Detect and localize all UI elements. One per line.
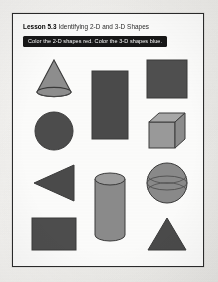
worksheet-frame: Lesson 5.3 Identifying 2-D and 3-D Shape… (12, 13, 204, 267)
shape-cell-rectangle-tall[interactable] (83, 54, 137, 156)
shape-cell-sphere[interactable] (139, 158, 195, 208)
cube-icon (145, 109, 189, 153)
shape-cell-triangle-left[interactable] (25, 158, 83, 208)
instruction-banner: Color the 2-D shapes red. Color the 3-D … (23, 36, 167, 47)
square-icon (145, 58, 189, 100)
rectangle-icon (90, 69, 130, 141)
lesson-number: Lesson 5.3 (23, 23, 57, 30)
sphere-icon (145, 161, 189, 205)
triangle-icon (31, 162, 77, 204)
instruction-text: Color the 2-D shapes red. Color the 3-D … (28, 38, 162, 44)
cylinder-icon (92, 172, 128, 244)
scanned-worksheet-page: Lesson 5.3 Identifying 2-D and 3-D Shape… (0, 0, 218, 282)
triangle-icon (145, 215, 189, 253)
shape-cell-rectangle-wide[interactable] (25, 210, 83, 258)
shape-cell-circle[interactable] (25, 106, 83, 156)
rectangle-icon (30, 216, 78, 252)
cone-icon (33, 57, 75, 101)
shape-grid (19, 52, 195, 258)
circle-icon (33, 110, 75, 152)
lesson-title: Identifying 2-D and 3-D Shapes (58, 23, 149, 30)
shape-cell-cone[interactable] (25, 54, 83, 104)
shape-cell-cylinder[interactable] (83, 158, 137, 258)
page-title: Lesson 5.3 Identifying 2-D and 3-D Shape… (23, 23, 195, 31)
shape-cell-triangle-up[interactable] (139, 210, 195, 258)
shape-cell-cube[interactable] (139, 106, 195, 156)
shape-cell-square[interactable] (139, 54, 195, 104)
